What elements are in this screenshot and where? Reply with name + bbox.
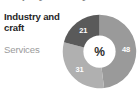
cropped-chart-title: Employment by sector (4, 0, 124, 3)
donut-chart: % 483121 (62, 14, 137, 89)
legend-item-services[interactable]: Services (4, 44, 66, 55)
legend-item-industry-and-craft[interactable]: Industry and craft (4, 11, 66, 34)
donut-center-percent-symbol: % (94, 45, 105, 59)
donut-value-label-21: 21 (79, 26, 87, 35)
donut-chart-svg: % 483121 (62, 14, 137, 89)
chart-figure: Employment by sector Industry and craft … (0, 0, 139, 96)
donut-value-label-31: 31 (76, 65, 84, 74)
donut-value-label-48: 48 (122, 45, 130, 54)
chart-legend: Industry and craft Services (4, 11, 66, 55)
